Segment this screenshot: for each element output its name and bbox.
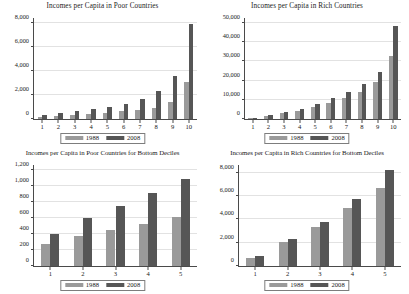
y-tick-mark	[31, 46, 34, 47]
bar-2008-decile-3	[116, 206, 125, 266]
bar-2008-decile-2	[268, 115, 272, 119]
bar-1988-decile-5	[172, 217, 181, 266]
y-tick-label: 6,000	[15, 36, 29, 43]
gridline	[34, 22, 197, 23]
bar-2008-decile-4	[148, 193, 157, 266]
y-tick-mark	[31, 233, 34, 234]
bar-2008-decile-1	[50, 234, 59, 266]
legend-swatch-2008-icon	[106, 283, 124, 287]
legend-label-2008: 2008	[332, 282, 345, 289]
x-tick-label: 8	[360, 123, 363, 130]
bar-1988-decile-4	[343, 208, 352, 266]
legend-label-1988: 1988	[290, 135, 303, 142]
x-tick-label: 3	[114, 270, 117, 277]
x-tick-label: 2	[267, 123, 270, 130]
y-tick-mark	[242, 22, 245, 23]
legend-swatch-1988-icon	[65, 283, 83, 287]
gridline	[34, 70, 197, 71]
y-tick-label: 0	[26, 256, 29, 263]
gridline	[245, 22, 401, 23]
bar-2008-decile-2	[288, 239, 297, 266]
x-tick-label: 4	[89, 123, 92, 130]
bar-2008-decile-1	[42, 115, 47, 119]
x-tick-label: 7	[345, 123, 348, 130]
legend-label-2008: 2008	[127, 135, 140, 142]
x-tick-label: 2	[286, 270, 289, 277]
bar-1988-decile-3	[311, 227, 320, 266]
bar-1988-decile-2	[74, 236, 83, 266]
y-tick-label: 50,000	[223, 12, 240, 19]
x-tick-label: 9	[376, 123, 379, 130]
bar-2008-decile-7	[140, 99, 145, 119]
x-tick-label: 10	[186, 123, 193, 130]
legend-entry-1988: 1988	[269, 135, 303, 142]
y-tick-mark	[31, 249, 34, 250]
legend-entry-2008: 2008	[311, 135, 345, 142]
bar-2008-decile-3	[75, 111, 80, 119]
gridline	[34, 185, 197, 186]
plot-area: 02,0004,0006,0008,00012345678910	[33, 18, 197, 120]
x-tick-label: 4	[298, 123, 301, 130]
bar-2008-decile-1	[253, 118, 257, 119]
y-tick-label: 2,000	[220, 232, 234, 239]
bar-2008-decile-2	[58, 113, 63, 119]
y-tick-label: 20,000	[223, 70, 240, 77]
y-tick-mark	[242, 41, 245, 42]
chart-panel-poor-countries-bottom-deciles: Incomes per Capita in Poor Countries for…	[0, 147, 205, 294]
y-tick-mark	[236, 195, 239, 196]
gridline	[239, 172, 401, 173]
x-tick-label: 2	[81, 270, 84, 277]
legend-entry-1988: 1988	[65, 282, 99, 289]
y-tick-mark	[236, 242, 239, 243]
legend-label-1988: 1988	[86, 282, 99, 289]
y-tick-label: 40,000	[223, 32, 240, 39]
legend-swatch-2008-icon	[311, 283, 329, 287]
y-tick-label: 600	[20, 207, 29, 214]
x-tick-label: 3	[318, 270, 321, 277]
bar-1988-decile-2	[279, 242, 288, 266]
y-tick-mark	[236, 218, 239, 219]
bar-2008-decile-9	[173, 76, 178, 119]
x-tick-label: 5	[314, 123, 317, 130]
y-tick-mark	[31, 94, 34, 95]
x-tick-label: 4	[351, 270, 354, 277]
chart-panel-rich-countries: Incomes per Capita in Rich Countries 010…	[205, 0, 409, 147]
x-tick-label: 9	[171, 123, 174, 130]
legend-swatch-1988-icon	[65, 136, 83, 140]
y-tick-mark	[242, 60, 245, 61]
legend-entry-1988: 1988	[65, 135, 99, 142]
legend-label-1988: 1988	[290, 282, 303, 289]
legend-label-1988: 1988	[86, 135, 99, 142]
y-tick-mark	[31, 169, 34, 170]
legend-entry-2008: 2008	[106, 282, 140, 289]
y-tick-mark	[31, 185, 34, 186]
bar-2008-decile-5	[385, 170, 394, 266]
y-tick-mark	[31, 265, 34, 266]
bar-2008-decile-3	[284, 112, 288, 119]
chart-legend: 1988 2008	[60, 280, 145, 291]
bar-2008-decile-5	[107, 107, 112, 119]
y-tick-mark	[31, 22, 34, 23]
y-tick-label: 0	[26, 109, 29, 116]
legend-entry-1988: 1988	[269, 282, 303, 289]
bar-2008-decile-8	[362, 84, 366, 119]
chart-title: Incomes per Capita in Rich Countries	[205, 2, 409, 10]
y-tick-label: 1,200	[15, 159, 29, 166]
x-tick-label: 8	[155, 123, 158, 130]
y-tick-label: 4,000	[220, 209, 234, 216]
bar-2008-decile-6	[124, 104, 129, 119]
chart-title: Incomes per Capita in Poor Countries for…	[0, 149, 205, 156]
x-tick-label: 1	[49, 270, 52, 277]
bar-1988-decile-5	[376, 188, 385, 266]
chart-legend: 1988 2008	[60, 133, 145, 144]
y-tick-mark	[236, 172, 239, 173]
y-tick-label: 8,000	[15, 12, 29, 19]
bar-2008-decile-7	[346, 92, 350, 119]
y-tick-label: 200	[20, 239, 29, 246]
y-tick-label: 8,000	[220, 162, 234, 169]
bar-2008-decile-10	[189, 24, 194, 119]
x-tick-label: 5	[106, 123, 109, 130]
bar-2008-decile-4	[300, 109, 304, 119]
chart-panel-poor-countries: Incomes per Capita in Poor Countries 02,…	[0, 0, 205, 147]
x-tick-label: 3	[73, 123, 76, 130]
